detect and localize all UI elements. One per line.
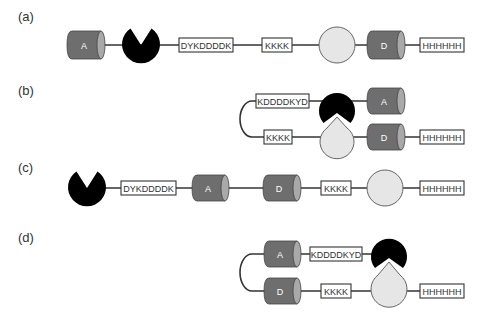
flag-tag-reversed-box: KDDDDKYD — [310, 247, 362, 261]
panel-d: A D KDDDDKYD KKKK HHHHHH — [240, 239, 464, 308]
cylinder-d-label: D — [381, 133, 388, 143]
panel-a: A DYKDDDDK KKKK D HHHHHH — [67, 27, 464, 63]
flag-tag-label: DYKDDDDK — [123, 184, 174, 194]
lysine-tag-box: KKKK — [262, 38, 292, 52]
cylinder-d-icon: D — [367, 124, 405, 150]
his-tag-box: HHHHHH — [420, 181, 464, 195]
diagram-canvas: A DYKDDDDK KKKK D HHHHHH — [0, 0, 484, 314]
flag-tag-label: DYKDDDDK — [181, 41, 232, 51]
cylinder-a-icon: A — [67, 31, 105, 59]
cylinder-d-label: D — [277, 287, 284, 297]
panel-c: DYKDDDDK A D KKKK HHHHHH — [68, 170, 464, 206]
lysine-tag-box: KKKK — [321, 284, 351, 298]
flag-tag-box: DYKDDDDK — [179, 38, 233, 52]
target-circle-icon — [319, 27, 355, 63]
flag-tag-reversed-label: KDDDDKYD — [257, 97, 308, 107]
cylinder-a-label: A — [381, 97, 387, 107]
lysine-tag-box: KKKK — [321, 181, 351, 195]
his-tag-label: HHHHHH — [423, 287, 462, 297]
cylinder-d-icon: D — [263, 175, 301, 201]
cylinder-d-label: D — [381, 41, 388, 51]
cylinder-d-icon: D — [367, 31, 405, 59]
target-drop-icon — [320, 117, 354, 159]
flag-tag-reversed-label: KDDDDKYD — [311, 250, 362, 260]
loop-linker — [240, 254, 266, 291]
target-circle-icon — [367, 170, 403, 206]
his-tag-label: HHHHHH — [423, 184, 462, 194]
his-tag-label: HHHHHH — [423, 133, 462, 143]
flag-tag-box: DYKDDDDK — [121, 181, 176, 195]
his-tag-box: HHHHHH — [420, 284, 464, 298]
cylinder-d-icon: D — [264, 278, 301, 304]
panel-b: KDDDDKYD KKKK A D HHHHHH — [240, 88, 464, 159]
cylinder-a-label: A — [81, 41, 87, 51]
flag-tag-reversed-box: KDDDDKYD — [256, 94, 309, 108]
lysine-tag-label: KKKK — [324, 287, 348, 297]
lysine-tag-label: KKKK — [265, 41, 289, 51]
binder-pacman-icon — [68, 172, 106, 207]
lysine-tag-box: KKKK — [264, 130, 292, 144]
cylinder-a-label: A — [277, 250, 283, 260]
cylinder-a-icon: A — [192, 175, 229, 201]
his-tag-box: HHHHHH — [420, 130, 464, 144]
his-tag-label: HHHHHH — [423, 41, 462, 51]
lysine-tag-label: KKKK — [266, 133, 290, 143]
his-tag-box: HHHHHH — [420, 38, 464, 52]
binder-pacman-icon — [122, 29, 160, 64]
cylinder-a-icon: A — [367, 88, 405, 114]
cylinder-d-label: D — [276, 184, 283, 194]
cylinder-a-label: A — [205, 184, 211, 194]
cylinder-a-icon: A — [264, 241, 301, 267]
target-drop-icon — [371, 262, 407, 307]
lysine-tag-label: KKKK — [324, 184, 348, 194]
